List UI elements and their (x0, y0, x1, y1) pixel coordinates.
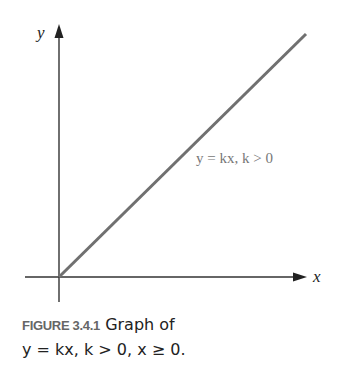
x-axis-label: x (312, 267, 321, 286)
y-axis-label: y (35, 23, 45, 42)
caption-equation: y = kx, k > 0, x ≥ 0. (22, 338, 185, 362)
curve-label: y = kx, k > 0 (196, 150, 273, 166)
y-axis-arrow-icon (55, 24, 64, 38)
caption-text: Graph of (100, 315, 175, 334)
figure-number: FIGURE 3.4.1 (22, 318, 100, 333)
figure-caption: FIGURE 3.4.1 Graph of y = kx, k > 0, x ≥… (22, 313, 185, 362)
x-axis-arrow-icon (293, 273, 307, 282)
graph: y x y = kx, k > 0 (0, 0, 355, 310)
